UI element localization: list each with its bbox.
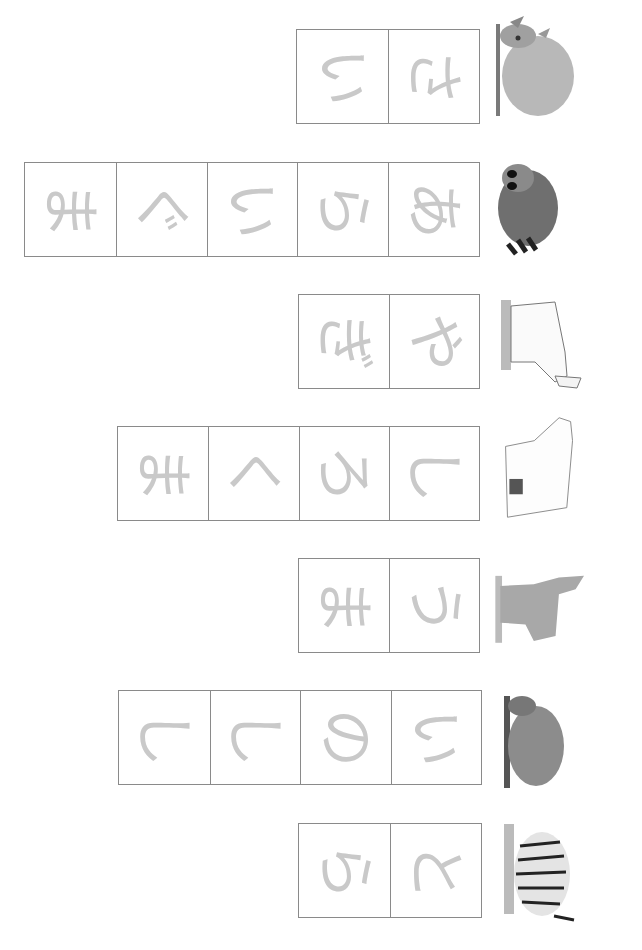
trace-char: ろ <box>315 445 373 503</box>
tracing-cell[interactable]: の <box>300 691 391 784</box>
trace-char: し <box>405 445 463 503</box>
trace-char: や <box>406 313 464 371</box>
tracing-grid: ら と <box>298 823 482 918</box>
trace-char: し <box>135 709 193 767</box>
trace-char: ま <box>315 577 373 635</box>
polar-bear-icon <box>494 412 586 522</box>
trace-char: さ <box>405 48 463 106</box>
tracing-cell[interactable]: ぎ <box>299 295 389 388</box>
tracing-cell[interactable]: あ <box>388 163 479 256</box>
tracing-cell[interactable]: し <box>210 691 301 784</box>
trace-char: う <box>406 577 464 635</box>
trace-char: い <box>314 48 372 106</box>
tracing-cell[interactable]: い <box>391 691 482 784</box>
tracing-cell[interactable]: ま <box>299 559 389 652</box>
trace-char: ま <box>134 445 192 503</box>
tracing-cell[interactable]: う <box>389 559 479 652</box>
tracing-cell[interactable]: し <box>389 427 479 520</box>
tracing-grid: い さ <box>296 29 480 124</box>
rhinoceros-icon <box>488 14 580 124</box>
tracing-grid: ま う <box>298 558 480 653</box>
trace-char: い <box>223 181 281 239</box>
tracing-grid: し し の い <box>118 690 482 785</box>
trace-char: の <box>317 709 375 767</box>
trace-char: ぐ <box>133 181 191 239</box>
tracing-cell[interactable]: や <box>389 295 479 388</box>
trace-char: ま <box>41 181 99 239</box>
tracing-cell[interactable]: ら <box>297 163 388 256</box>
goat-icon <box>495 292 587 402</box>
trace-char: ら <box>314 181 372 239</box>
tracing-grid: ま く ろ し <box>117 426 480 521</box>
tracing-cell[interactable]: く <box>208 427 298 520</box>
tracing-cell[interactable]: い <box>297 30 388 123</box>
tracing-cell[interactable]: い <box>207 163 298 256</box>
tracing-cell[interactable]: と <box>390 824 481 917</box>
tiger-icon <box>500 816 592 926</box>
horse-icon <box>492 556 584 666</box>
raccoon-icon <box>488 152 580 262</box>
tracing-cell[interactable]: さ <box>388 30 479 123</box>
tracing-grid: ま ぐ い ら あ <box>24 162 480 257</box>
trace-char: く <box>225 445 283 503</box>
tracing-cell[interactable]: し <box>119 691 210 784</box>
tracing-cell[interactable]: ま <box>25 163 116 256</box>
trace-char: ら <box>316 842 374 900</box>
trace-char: い <box>407 709 465 767</box>
trace-char: し <box>226 709 284 767</box>
boar-icon <box>496 686 588 796</box>
tracing-cell[interactable]: ろ <box>299 427 389 520</box>
tracing-cell[interactable]: ま <box>118 427 208 520</box>
trace-char: ぎ <box>315 313 373 371</box>
tracing-cell[interactable]: ぐ <box>116 163 207 256</box>
trace-char: と <box>407 842 465 900</box>
tracing-cell[interactable]: ら <box>299 824 390 917</box>
tracing-grid: ぎ や <box>298 294 480 389</box>
trace-char: あ <box>405 181 463 239</box>
